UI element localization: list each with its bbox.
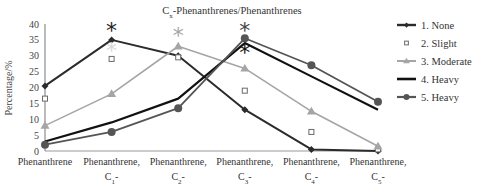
legend-label: 5. Heavy: [421, 92, 460, 103]
legend-item-4: 4. Heavy: [397, 74, 460, 85]
y-tick-label: 35: [29, 34, 39, 45]
legend-item-5: 5. Heavy: [397, 92, 460, 103]
x-tick-label: Phenanthrene,: [150, 156, 207, 167]
legend-item-1: 1. None: [397, 20, 455, 31]
asterisk-annotation: *: [173, 23, 184, 48]
y-tick-label: 40: [29, 19, 39, 30]
x-tick-sublabel: C2-: [171, 171, 185, 186]
x-tick-sublabel: C5-: [371, 171, 385, 186]
x-tick-label: Phenanthrene: [18, 156, 73, 167]
legend-label: 1. None: [421, 20, 455, 31]
legend-item-3: 3. Moderate: [397, 56, 472, 67]
data-series: [41, 34, 383, 154]
legend-label: 4. Heavy: [421, 74, 460, 85]
x-tick-label: Phenanthrene,: [83, 156, 140, 167]
x-tick-sublabel: C3-: [238, 171, 252, 186]
x-axis: PhenanthrenePhenanthrene,C1-Phenanthrene…: [18, 151, 407, 186]
series-1: [42, 36, 382, 154]
legend: 1. None2. Slight3. Moderate4. Heavy5. He…: [397, 20, 472, 103]
x-tick-label: Phenanthrene,: [216, 156, 273, 167]
x-tick-sublabel: C4-: [305, 171, 319, 186]
y-axis-label: Percentage/%: [3, 61, 14, 116]
y-tick-label: 0: [34, 146, 39, 157]
x-tick-label: Phenanthrene,: [350, 156, 407, 167]
y-tick-label: 15: [29, 98, 39, 109]
y-tick-label: 25: [29, 66, 39, 77]
line-chart: Cx-Phenanthrenes/Phenanthrenes Percentag…: [0, 0, 492, 188]
legend-label: 3. Moderate: [421, 56, 472, 67]
x-tick-label: Phenanthrene,: [283, 156, 340, 167]
series-5: [41, 34, 382, 148]
legend-item-2: 2. Slight: [405, 38, 457, 49]
x-tick-sublabel: C1-: [105, 171, 119, 186]
asterisk-annotation: *: [106, 38, 117, 63]
y-tick-label: 10: [29, 114, 39, 125]
chart-title: Cx-Phenanthrenes/Phenanthrenes: [162, 5, 301, 20]
asterisk-annotation: *: [239, 40, 250, 65]
y-axis: 0510152025303540: [29, 19, 45, 157]
y-tick-label: 30: [29, 50, 39, 61]
series-3: [41, 42, 383, 150]
y-tick-label: 5: [34, 130, 39, 141]
y-tick-label: 20: [29, 82, 39, 93]
legend-label: 2. Slight: [421, 38, 457, 49]
